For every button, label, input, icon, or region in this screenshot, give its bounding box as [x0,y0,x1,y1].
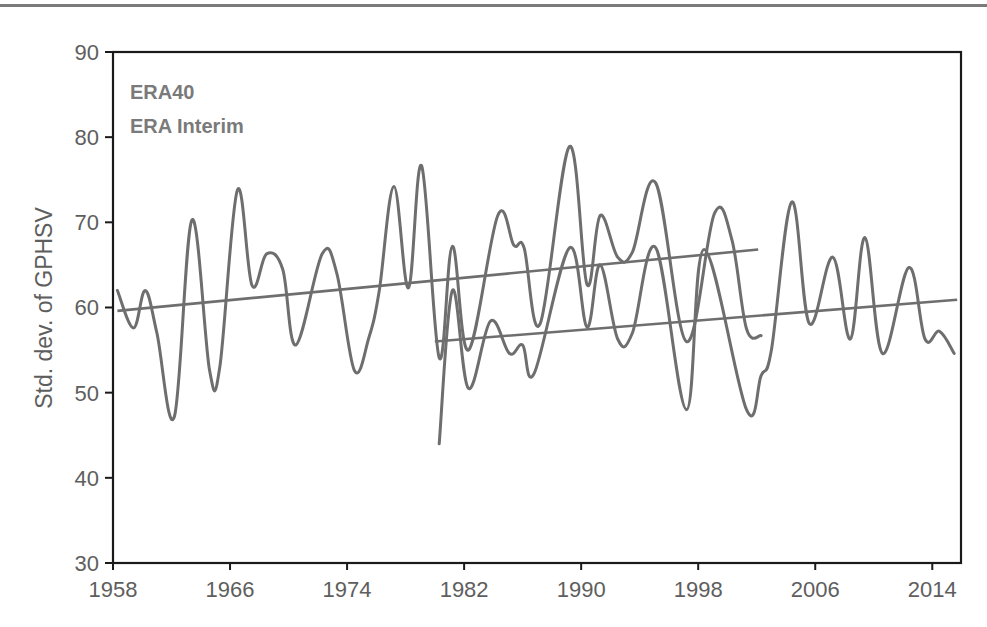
x-tick-label: 2006 [791,577,840,602]
series-layer [117,146,957,444]
x-axis-ticks: 19581966197419821990199820062014 [89,563,957,602]
x-tick-label: 1974 [323,577,372,602]
y-tick-label: 30 [75,551,99,576]
y-tick-label: 40 [75,466,99,491]
x-tick-label: 1958 [89,577,138,602]
y-tick-label: 90 [75,40,99,65]
y-axis-title: Std. dev. of GPHSV [31,207,57,409]
y-tick-label: 50 [75,381,99,406]
x-tick-label: 1998 [674,577,723,602]
series-line-era-interim [439,202,954,444]
legend-item-era-interim: ERA Interim [130,115,244,137]
y-tick-label: 70 [75,210,99,235]
y-tick-label: 60 [75,295,99,320]
x-tick-label: 1982 [440,577,489,602]
y-axis-ticks: 30405060708090 [75,40,113,576]
x-tick-label: 1966 [206,577,255,602]
legend-item-era40: ERA40 [130,81,194,103]
x-tick-label: 1990 [557,577,606,602]
legend: ERA40 ERA Interim [130,81,244,137]
y-tick-label: 80 [75,125,99,150]
series-era-interim [435,202,957,444]
x-tick-label: 2014 [908,577,957,602]
line-chart: 19581966197419821990199820062014 3040506… [0,0,987,627]
